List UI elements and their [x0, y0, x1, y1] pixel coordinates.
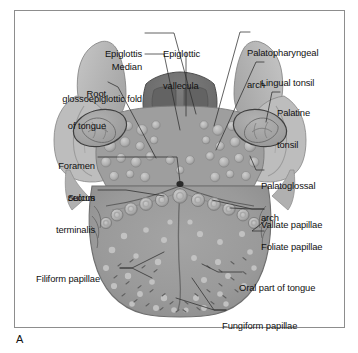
label-line: tonsil: [277, 140, 310, 151]
label-fungiform-papillae: Fungiform papillae: [222, 300, 297, 353]
label-sulcus-terminalis: Sulcus terminalis: [56, 172, 95, 257]
anatomy-figure: Epiglottis Median glossoepiglottic fold …: [0, 0, 358, 353]
label-line: Foliate papillae: [261, 242, 322, 253]
panel-letter: A: [16, 333, 23, 345]
label-line: Epiglottic: [163, 49, 200, 60]
label-line: vallecula: [163, 81, 200, 92]
label-line: Sulcus: [56, 193, 95, 204]
label-line: terminalis: [56, 225, 95, 236]
label-line: Palatoglossal: [261, 181, 315, 192]
label-line: Root: [68, 89, 106, 100]
label-filiform-papillae: Filiform papillae: [36, 253, 100, 306]
label-line: Oral part of tongue: [239, 283, 315, 294]
label-line: Palatine: [277, 108, 310, 119]
label-line: of tongue: [68, 121, 106, 132]
label-line: Fungiform papillae: [222, 321, 297, 332]
label-line: Foramen: [58, 161, 95, 172]
label-epiglottic-vallecula: Epiglottic vallecula: [163, 28, 200, 113]
label-line: Filiform papillae: [36, 274, 100, 285]
